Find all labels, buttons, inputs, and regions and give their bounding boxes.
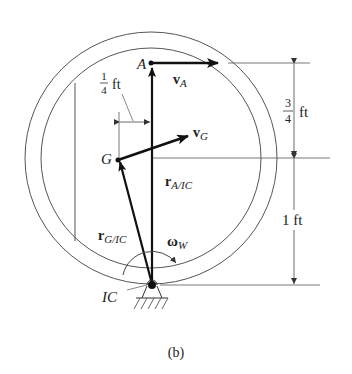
label-ic: IC: [101, 289, 118, 305]
ic-leader-line: [127, 285, 147, 290]
label-g: G: [101, 151, 112, 167]
pin-support-icon: [134, 280, 168, 309]
label-three-quarter-ft: 3 4 ft: [283, 96, 309, 126]
svg-text:4: 4: [101, 84, 107, 96]
label-v-g: vG: [193, 125, 208, 142]
label-r-a-ic: rA/IC: [165, 174, 193, 191]
point-g: [116, 158, 121, 163]
figure-caption: (b): [168, 345, 185, 361]
label-omega-w: ωW: [167, 233, 188, 251]
dim-quarter-leader: [122, 94, 133, 121]
point-a: [149, 61, 154, 66]
label-quarter-ft: 1 4 ft: [100, 70, 121, 96]
svg-text:ft: ft: [112, 77, 121, 92]
label-v-a: vA: [173, 72, 187, 89]
label-r-g-ic: rG/IC: [98, 228, 127, 245]
svg-text:ft: ft: [299, 104, 309, 120]
svg-text:1: 1: [101, 70, 107, 82]
svg-text:3: 3: [285, 96, 291, 110]
wheel-kinematics-diagram: A G IC vA vG rA/IC rG/IC ωW 1 4 ft 3 4 f…: [0, 0, 352, 374]
label-one-ft: 1 ft: [282, 212, 303, 228]
svg-text:4: 4: [285, 112, 291, 126]
label-a: A: [136, 56, 147, 72]
r-g-ic-vector: [120, 162, 152, 284]
